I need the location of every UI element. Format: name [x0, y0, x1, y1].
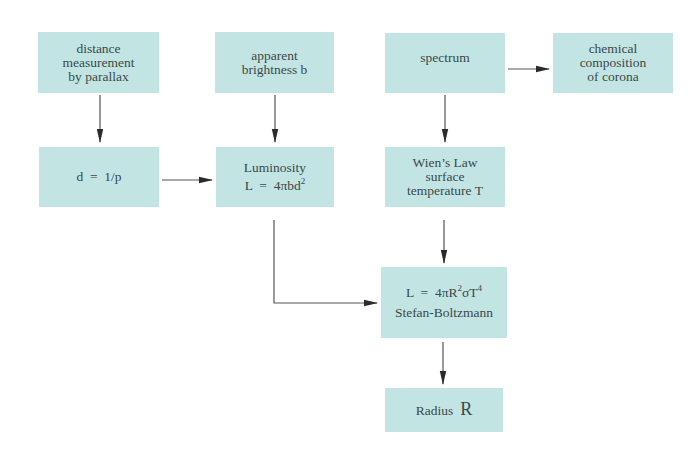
- formula-equals: =: [421, 285, 429, 300]
- arrow-luminosity-to-stefan: [274, 220, 377, 303]
- node-luminosity: Luminosity L = 4πbd2: [216, 147, 334, 207]
- formula-lhs: L: [245, 178, 253, 193]
- node-wiens-law: Wien’s Law surface temperature T: [385, 147, 505, 207]
- node-text: by parallax: [68, 70, 128, 84]
- node-text: Radius R: [416, 402, 472, 418]
- node-text: distance: [76, 42, 120, 56]
- node-text: brightness b: [242, 63, 308, 77]
- node-text: apparent: [251, 49, 297, 63]
- node-text: of corona: [587, 70, 638, 84]
- radius-symbol: R: [460, 399, 472, 419]
- formula-rhs: 1/p: [104, 169, 121, 184]
- formula-rhs: 4πbd: [274, 178, 301, 193]
- formula-equals: =: [259, 178, 267, 193]
- formula-exponent-4: 4: [477, 283, 482, 293]
- node-parallax: distance measurement by parallax: [38, 32, 159, 93]
- formula-term-a: 4πR: [435, 285, 458, 300]
- node-text: temperature T: [407, 184, 483, 198]
- node-text: measurement: [63, 56, 135, 70]
- formula: L = 4πbd2: [245, 177, 305, 195]
- radius-label: Radius: [416, 403, 454, 418]
- node-text: chemical: [589, 42, 638, 56]
- node-text: surface: [426, 170, 465, 184]
- node-stefan-boltzmann: L = 4πR2σT4 Stefan-Boltzmann: [381, 267, 507, 338]
- node-text: Wien’s Law: [412, 156, 477, 170]
- node-radius: Radius R: [385, 388, 503, 432]
- node-apparent-brightness: apparent brightness b: [215, 32, 334, 93]
- node-spectrum: spectrum: [385, 33, 505, 93]
- formula: d = 1/p: [76, 170, 121, 184]
- formula-lhs: L: [406, 285, 414, 300]
- formula: L = 4πR2σT4: [406, 283, 482, 303]
- node-distance-formula: d = 1/p: [39, 147, 159, 207]
- formula-exponent: 2: [301, 176, 306, 186]
- node-text: spectrum: [420, 51, 470, 65]
- node-title: Stefan-Boltzmann: [395, 303, 493, 323]
- node-title: Luminosity: [244, 159, 306, 177]
- formula-term-b: σT: [462, 285, 478, 300]
- node-text: composition: [580, 56, 647, 70]
- node-chemical-composition: chemical composition of corona: [553, 33, 673, 93]
- formula-equals: =: [90, 169, 98, 184]
- formula-lhs: d: [76, 169, 83, 184]
